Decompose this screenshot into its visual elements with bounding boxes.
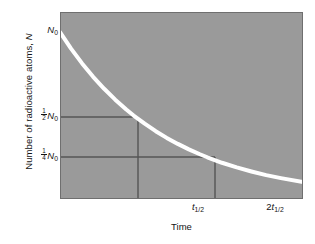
x-tick-label-2t-half: 2t1/2 [255, 201, 295, 213]
fraction-one-half: 12 [41, 108, 47, 122]
y-tick-label-n0: N0 [20, 24, 58, 36]
x-tick-label-t-half: t1/2 [178, 201, 218, 213]
fraction-one-quarter: 14 [41, 148, 47, 162]
y-tick-label-quarter-n0: 14N0 [20, 148, 58, 162]
plot-border [61, 13, 303, 199]
x-axis-title: Time [60, 221, 303, 232]
y-tick-label-half-n0: 12N0 [20, 108, 58, 122]
radioactive-decay-figure: Number of radioactive atoms, N N0 12N0 1… [0, 0, 315, 244]
plot-area [60, 12, 303, 199]
plot-svg [60, 12, 303, 199]
decay-curve [60, 32, 303, 182]
